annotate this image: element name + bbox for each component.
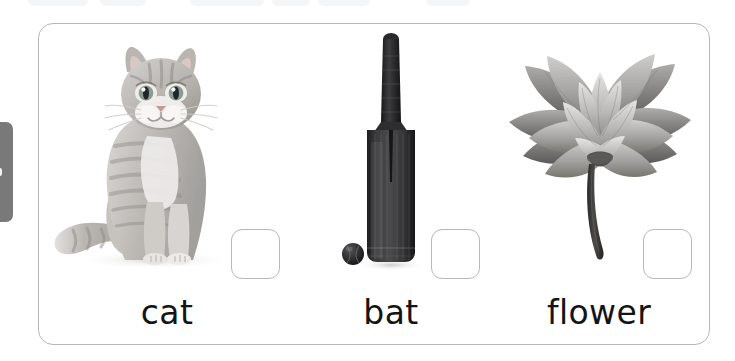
word-label-cat: cat — [43, 294, 291, 332]
worksheet-row: cat — [39, 24, 709, 344]
worksheet-item-cat: cat — [43, 24, 291, 344]
answer-box-flower[interactable] — [643, 229, 692, 279]
cut-off-sidebar-notch — [0, 168, 2, 176]
cut-off-top-chrome-fragment — [272, 0, 310, 6]
worksheet-card: cat — [38, 23, 710, 345]
worksheet-item-bat: bat — [291, 24, 491, 344]
cut-off-top-chrome-fragment — [28, 0, 88, 6]
answer-box-bat[interactable] — [431, 229, 480, 279]
cut-off-top-chrome-fragment — [190, 0, 264, 6]
cut-off-top-chrome — [0, 0, 735, 9]
worksheet-item-flower: flower — [491, 24, 707, 344]
word-label-flower: flower — [491, 294, 707, 332]
word-label-bat: bat — [291, 294, 491, 332]
cut-off-top-chrome-fragment — [100, 0, 146, 6]
answer-box-cat[interactable] — [231, 229, 280, 279]
cut-off-top-chrome-fragment — [426, 0, 470, 6]
cut-off-top-chrome-fragment — [318, 0, 370, 6]
